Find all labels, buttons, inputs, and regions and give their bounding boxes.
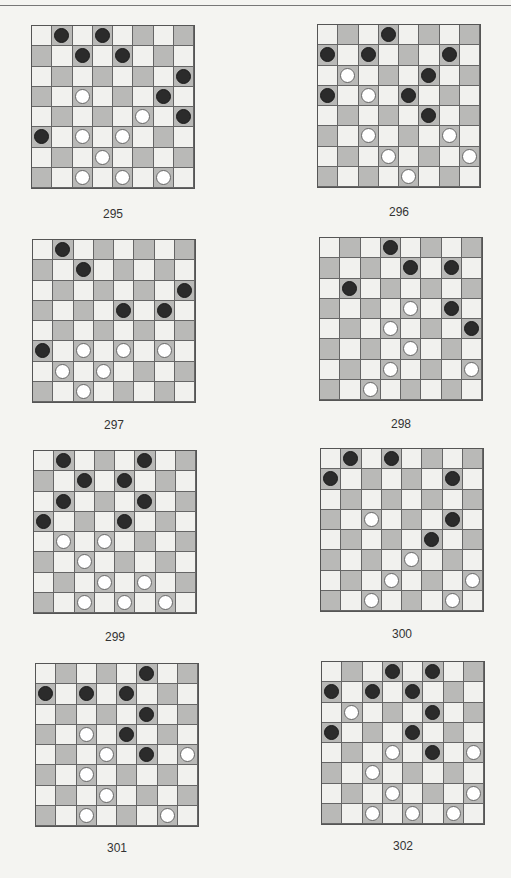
board-square bbox=[460, 86, 480, 106]
board-square bbox=[156, 573, 176, 593]
board-square bbox=[77, 806, 97, 826]
black-checker-piece bbox=[176, 69, 191, 84]
board-square bbox=[322, 703, 342, 723]
board-square bbox=[399, 45, 419, 65]
board-square bbox=[77, 745, 97, 765]
board-square bbox=[338, 25, 358, 45]
board-square bbox=[117, 725, 137, 745]
board-square bbox=[113, 26, 133, 46]
board-square bbox=[178, 806, 198, 826]
board-square bbox=[174, 127, 194, 147]
board-square bbox=[399, 106, 419, 126]
board-square bbox=[402, 530, 422, 550]
board-square bbox=[178, 765, 198, 785]
board-square bbox=[133, 148, 153, 168]
white-checker-piece bbox=[405, 806, 420, 821]
board-square bbox=[34, 471, 54, 491]
board-square bbox=[54, 593, 74, 613]
board-square bbox=[463, 530, 483, 550]
board-square bbox=[115, 512, 135, 532]
board-square bbox=[158, 684, 178, 704]
board-square bbox=[117, 765, 137, 785]
board-square bbox=[154, 67, 174, 87]
board-square bbox=[156, 532, 176, 552]
board-square bbox=[383, 662, 403, 682]
black-checker-piece bbox=[137, 453, 152, 468]
board-square bbox=[322, 723, 342, 743]
board-square bbox=[97, 745, 117, 765]
board-square bbox=[73, 127, 93, 147]
board-square bbox=[113, 127, 133, 147]
checkerboard-301 bbox=[35, 663, 199, 827]
board-square bbox=[401, 258, 421, 278]
board-square bbox=[176, 451, 196, 471]
white-checker-piece bbox=[404, 552, 419, 567]
board-square bbox=[443, 490, 463, 510]
board-square bbox=[52, 107, 72, 127]
board-square bbox=[442, 299, 462, 319]
board-square bbox=[362, 490, 382, 510]
board-square bbox=[423, 763, 443, 783]
white-checker-piece bbox=[158, 595, 173, 610]
board-square bbox=[363, 723, 383, 743]
board-square bbox=[423, 723, 443, 743]
board-square bbox=[135, 512, 155, 532]
board-square bbox=[158, 765, 178, 785]
black-checker-piece bbox=[445, 512, 460, 527]
board-square bbox=[440, 147, 460, 167]
board-square bbox=[402, 449, 422, 469]
black-checker-piece bbox=[95, 28, 110, 43]
board-square bbox=[93, 127, 113, 147]
board-square bbox=[133, 67, 153, 87]
board-square bbox=[443, 571, 463, 591]
white-checker-piece bbox=[135, 109, 150, 124]
board-square bbox=[137, 684, 157, 704]
board-square bbox=[318, 45, 338, 65]
board-square bbox=[462, 238, 482, 258]
board-square bbox=[32, 168, 52, 188]
board-square bbox=[94, 260, 114, 280]
board-square bbox=[33, 362, 53, 382]
board-square bbox=[32, 127, 52, 147]
diagram-number-label: 301 bbox=[35, 841, 199, 855]
board-square bbox=[340, 299, 360, 319]
board-square bbox=[74, 341, 94, 361]
board-square bbox=[362, 449, 382, 469]
board-square bbox=[403, 723, 423, 743]
white-checker-piece bbox=[363, 382, 378, 397]
board-square bbox=[54, 512, 74, 532]
board-square bbox=[93, 148, 113, 168]
board-square bbox=[155, 362, 175, 382]
board-square bbox=[419, 167, 439, 187]
white-checker-piece bbox=[79, 767, 94, 782]
white-checker-piece bbox=[180, 747, 195, 762]
board-square bbox=[134, 341, 154, 361]
board-square bbox=[114, 301, 134, 321]
board-square bbox=[56, 705, 76, 725]
black-checker-piece bbox=[176, 109, 191, 124]
black-checker-piece bbox=[365, 684, 380, 699]
checkerboard-299 bbox=[33, 450, 197, 614]
board-square bbox=[154, 148, 174, 168]
white-checker-piece bbox=[137, 575, 152, 590]
board-square bbox=[115, 492, 135, 512]
board-square bbox=[33, 301, 53, 321]
board-square bbox=[176, 492, 196, 512]
board-square bbox=[77, 725, 97, 745]
board-square bbox=[178, 786, 198, 806]
board-square bbox=[158, 786, 178, 806]
board-square bbox=[342, 662, 362, 682]
board-square bbox=[74, 260, 94, 280]
white-checker-piece bbox=[77, 595, 92, 610]
board-square bbox=[419, 25, 439, 45]
board-square bbox=[443, 550, 463, 570]
board-square bbox=[154, 26, 174, 46]
checkerboard-298 bbox=[319, 237, 483, 401]
board-square bbox=[154, 87, 174, 107]
board-square bbox=[362, 591, 382, 611]
board-square bbox=[175, 321, 195, 341]
board-square bbox=[176, 552, 196, 572]
board-square bbox=[382, 571, 402, 591]
board-square bbox=[33, 260, 53, 280]
board-square bbox=[423, 682, 443, 702]
